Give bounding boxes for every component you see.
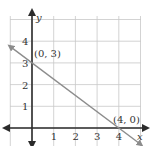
x-tick-label: 1 — [51, 131, 57, 142]
annotation-x-intercept: (4, 0) — [113, 114, 140, 125]
annotation-y-intercept: (0, 3) — [34, 48, 61, 59]
x-tick-label: 2 — [72, 131, 78, 142]
x-tick-label: 3 — [94, 131, 100, 142]
y-tick-labels: 1234 — [22, 36, 28, 112]
y-axis-label: y — [35, 12, 42, 23]
y-tick-label: 3 — [22, 58, 28, 69]
x-tick-labels: 1234 — [51, 131, 122, 142]
y-tick-label: 2 — [22, 80, 28, 91]
grid-lines — [10, 16, 141, 146]
y-tick-label: 4 — [22, 36, 28, 47]
x-tick-label: 4 — [116, 131, 122, 142]
x-axis-label: x — [137, 131, 143, 142]
coordinate-plane: 1234 1234 x y (0, 3) (4, 0) — [0, 0, 152, 146]
y-tick-label: 1 — [22, 101, 28, 112]
